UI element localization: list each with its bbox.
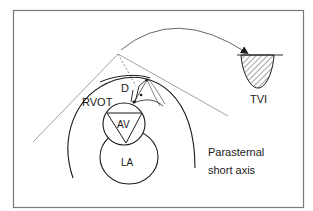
label-tvi: TVI — [250, 93, 267, 105]
figure-frame — [14, 11, 304, 208]
tvi-waveform — [237, 55, 283, 88]
tvi-envelope — [241, 55, 274, 88]
label-view-line2: short axis — [208, 164, 256, 176]
label-rvot: RVOT — [82, 96, 113, 108]
doppler-arrow — [121, 28, 247, 53]
label-av: AV — [117, 119, 130, 130]
label-la: LA — [121, 157, 134, 168]
label-view-line1: Parasternal — [208, 146, 264, 158]
label-d: D — [121, 82, 129, 94]
echo-diagram: D RVOT AV LA TVI Parasternal short axis — [0, 0, 313, 211]
